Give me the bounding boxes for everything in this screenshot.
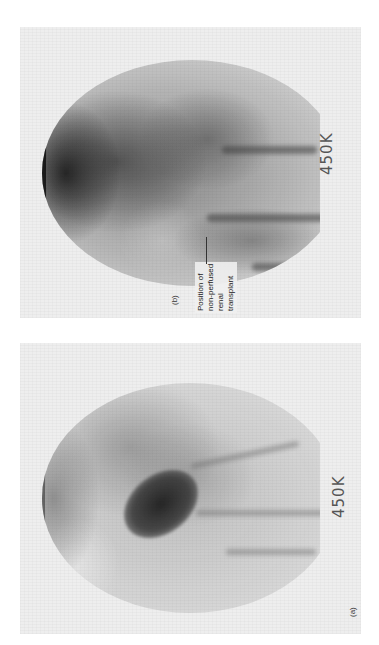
annotation-pointer-line [206, 237, 207, 264]
panel-b-scintigram: 450K (b) Position of non-perfused renal … [20, 27, 361, 318]
vessel-streak [196, 510, 326, 516]
panel-a-scintigram: 450K (a) [20, 343, 361, 634]
vessel-streak [222, 146, 317, 154]
panel-label: (a) [348, 607, 357, 617]
annotation-line: transplant [226, 264, 236, 311]
annotation-line: non-perfused [206, 264, 216, 311]
vessel-streak [252, 263, 322, 271]
gamma-camera-field-of-view [42, 60, 342, 286]
vessel-streak [191, 441, 300, 470]
vessel-streak [207, 214, 327, 222]
vessel-streak [226, 549, 316, 555]
fov-edge [42, 406, 55, 590]
annotation-non-perfused-transplant: Position of non-perfused renal transplan… [195, 262, 237, 313]
annotation-line: Position of [196, 264, 206, 311]
fov-edge [42, 78, 56, 268]
panel-label: (b) [170, 295, 179, 305]
annotation-line: renal [216, 264, 226, 311]
count-label: 450K [318, 133, 336, 175]
count-label: 450K [330, 476, 348, 518]
